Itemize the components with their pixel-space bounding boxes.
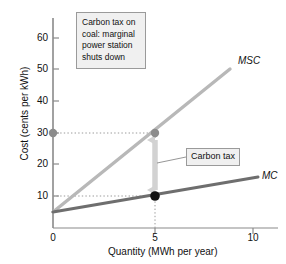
point-mc-at-q5 [150,191,160,201]
y-tick-label-10: 10 [24,190,48,201]
x-tick-marks [155,228,253,234]
point-msc-at-q5 [151,129,159,137]
x-axis-title: Quantity (MWh per year) [108,246,217,257]
point-msc-intercept-axis [49,129,57,137]
y-axis-title: Cost (cents per kWh) [19,54,30,174]
series-label-msc: MSC [238,55,260,66]
x-tick-label-0: 0 [43,232,63,243]
x-tick-label-5: 5 [145,232,165,243]
series-line-msc [53,69,230,212]
series-label-mc: MC [262,170,278,181]
callout-leader-line [157,157,186,163]
carbon-tax-callout: Carbon tax [186,148,240,166]
annotation-note-box: Carbon tax on coal: marginal power stati… [76,12,146,69]
y-tick-label-60: 60 [24,32,48,43]
x-tick-label-10: 10 [243,232,263,243]
chart-figure: 60 50 40 30 20 10 0 5 10 Cost (cents per… [0,0,286,264]
y-tick-marks [53,38,59,196]
